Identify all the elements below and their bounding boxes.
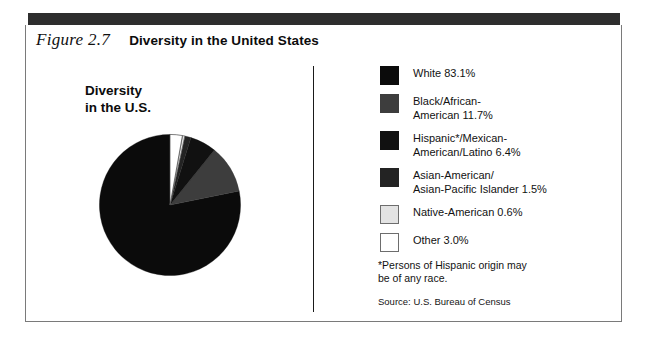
legend-footnote: *Persons of Hispanic origin may be of an… [378, 259, 613, 285]
header-rule-band [28, 13, 620, 25]
pie-chart [98, 133, 242, 277]
legend-swatch-icon [380, 66, 399, 85]
legend-item-label: Hispanic*/Mexican- American/Latino 6.4% [413, 131, 521, 159]
legend-swatch-icon [380, 131, 399, 150]
legend-swatch-icon [380, 205, 399, 224]
figure-caption: Figure 2.7 Diversity in the United State… [36, 30, 319, 50]
legend-item-label: White 83.1% [413, 66, 475, 81]
panel-divider [313, 66, 314, 312]
legend-swatch-icon [380, 168, 399, 187]
legend-item-label: Black/African- American 11.7% [413, 94, 493, 122]
legend-item: Black/African- American 11.7% [380, 94, 612, 122]
legend-item: Hispanic*/Mexican- American/Latino 6.4% [380, 131, 612, 159]
legend-item: Native-American 0.6% [380, 205, 612, 224]
pie-slice-group [99, 134, 240, 275]
legend-swatch-icon [380, 233, 399, 252]
legend-item: Asian-American/ Asian-Pacific Islander 1… [380, 168, 612, 196]
legend-item-label: Native-American 0.6% [413, 205, 522, 220]
pie-chart-title: Diversity in the U.S. [85, 82, 151, 116]
legend-item-label: Asian-American/ Asian-Pacific Islander 1… [413, 168, 547, 196]
figure-title: Diversity in the United States [129, 33, 319, 48]
legend-swatch-icon [380, 94, 399, 113]
legend: White 83.1%Black/African- American 11.7%… [380, 66, 612, 261]
legend-item-label: Other 3.0% [413, 233, 469, 248]
legend-item: Other 3.0% [380, 233, 612, 252]
figure-page: Figure 2.7 Diversity in the United State… [0, 0, 647, 339]
legend-item: White 83.1% [380, 66, 612, 85]
legend-source: Source: U.S. Bureau of Census [378, 296, 613, 308]
figure-number: Figure 2.7 [36, 30, 110, 50]
pie-chart-panel: Diversity in the U.S. [25, 60, 313, 315]
